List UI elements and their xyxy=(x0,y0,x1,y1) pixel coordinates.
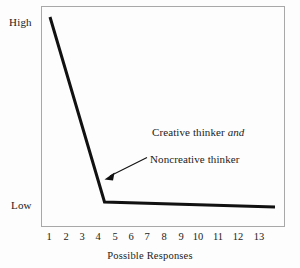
x-axis-tick-13: 13 xyxy=(254,231,265,242)
plot-frame xyxy=(41,6,285,227)
x-axis-tick-12: 12 xyxy=(233,231,244,242)
x-axis-tick-6: 6 xyxy=(128,231,133,242)
x-axis-tick-5: 5 xyxy=(112,231,117,242)
x-axis-title: Possible Responses xyxy=(0,250,300,261)
x-axis-tick-10: 10 xyxy=(193,231,204,242)
x-axis-tick-9: 9 xyxy=(178,231,183,242)
x-axis-tick-4: 4 xyxy=(95,231,100,242)
annotation-noncreative-thinker: Noncreative thinker xyxy=(150,153,240,165)
x-axis-tick-8: 8 xyxy=(161,231,166,242)
x-axis-tick-7: 7 xyxy=(144,231,149,242)
chart-figure: High Low Creative thinker and Noncreativ… xyxy=(0,0,300,268)
y-axis-label-low: Low xyxy=(11,199,32,211)
x-axis-tick-1: 1 xyxy=(46,231,51,242)
x-axis-tick-2: 2 xyxy=(63,231,68,242)
y-axis-label-high: High xyxy=(9,16,32,28)
annotation-creative-thinker-prefix: Creative thinker xyxy=(152,126,228,138)
annotation-creative-thinker: Creative thinker and xyxy=(152,126,244,138)
x-axis-tick-3: 3 xyxy=(79,231,84,242)
x-axis-tick-11: 11 xyxy=(213,231,223,242)
annotation-creative-thinker-and: and xyxy=(228,126,245,138)
x-axis-tick-labels: 12345678910111213 xyxy=(41,231,285,245)
